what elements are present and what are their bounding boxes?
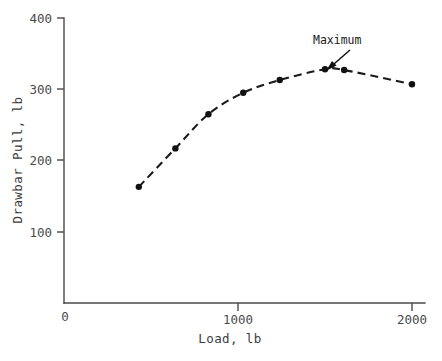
maximum-annotation: Maximum <box>313 33 362 71</box>
data-point <box>172 145 178 151</box>
x-axis-tick-labels: 1000 2000 <box>223 312 427 327</box>
y-tick-label-100: 100 <box>29 225 52 240</box>
y-axis-tick-labels: 400 300 200 100 0 <box>29 11 68 324</box>
y-tick-label-300: 300 <box>29 82 52 97</box>
data-point <box>341 67 347 73</box>
x-axis-ticks <box>238 303 412 311</box>
data-point <box>409 81 415 87</box>
data-curve-line <box>139 68 412 187</box>
data-point <box>240 90 246 96</box>
axes-spines <box>64 18 425 303</box>
origin-label-0: 0 <box>61 309 69 324</box>
data-point <box>136 184 142 190</box>
chart-figure: 400 300 200 100 0 1000 2000 Load, lb Dra… <box>0 0 442 361</box>
y-tick-label-400: 400 <box>29 11 52 26</box>
y-axis-ticks <box>57 18 64 232</box>
data-point <box>277 77 283 83</box>
data-point <box>205 111 211 117</box>
chart-canvas: 400 300 200 100 0 1000 2000 Load, lb Dra… <box>0 0 442 361</box>
y-axis-title: Drawbar Pull, lb <box>10 97 25 224</box>
x-tick-label-1000: 1000 <box>223 312 253 327</box>
y-tick-label-200: 200 <box>29 153 52 168</box>
data-point-markers <box>136 66 416 190</box>
x-tick-label-2000: 2000 <box>397 312 427 327</box>
x-axis-title: Load, lb <box>198 331 261 346</box>
annotation-label-maximum: Maximum <box>313 33 362 47</box>
